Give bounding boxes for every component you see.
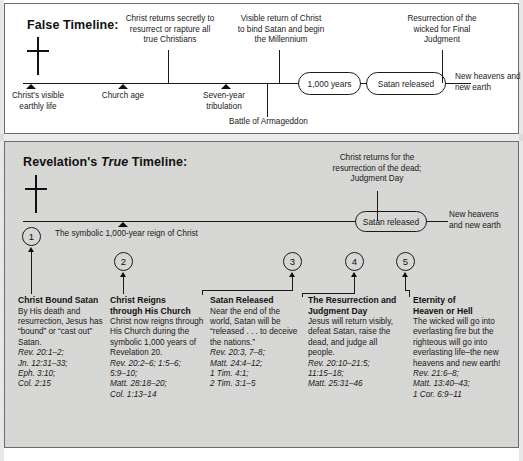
marker-circle-1-label: 1 — [29, 231, 34, 242]
pill-satan-released: Satan released — [366, 72, 446, 95]
column-2-body: Christ now reigns through His Church dur… — [110, 317, 206, 359]
marker-circle-2-label: 2 — [121, 256, 126, 267]
label-church-age: Church age — [85, 91, 161, 102]
cross-icon — [27, 37, 49, 77]
leader-line-col-1 — [31, 252, 32, 294]
label-new-heavens-true: New heavens and new earth — [449, 210, 517, 231]
leader-line-col-5-drop — [409, 290, 410, 297]
leader-line-col-4-h — [302, 293, 355, 294]
column-4-body: Jesus will return visibly, defeat Satan,… — [308, 317, 404, 359]
marker-circle-5-label: 5 — [403, 256, 408, 267]
label-visible-return: Visible return of Christ to bind Satan a… — [225, 14, 337, 46]
pill-1000-years-label: 1,000 years — [308, 79, 352, 89]
label-rapture: Christ returns secretly to resurrect or … — [111, 14, 229, 46]
leader-line-visible-return — [279, 50, 280, 83]
leader-line-col-5-v — [405, 277, 406, 291]
marker-circle-4-label: 4 — [352, 256, 357, 267]
label-christs-life: Christ's visible earthly life — [0, 91, 83, 112]
label-millennial-reign: The symbolic 1,000-year reign of Christ — [55, 229, 275, 240]
leader-line-col-4-drop — [302, 293, 303, 297]
column-1-body: By His death and resurrection, Jesus has… — [18, 307, 104, 349]
diagram-root: False Timeline: Christ returns secretly … — [0, 0, 523, 461]
pill-satan-released-label: Satan released — [378, 79, 434, 89]
column-5-heading: Eternity of Heaven or Hell — [413, 295, 511, 316]
true-timeline-title-emphasis: True — [101, 155, 128, 169]
column-3-body: Near the end of the world, Satan will be… — [210, 307, 300, 349]
true-timeline-title-suffix: Timeline: — [128, 155, 187, 169]
marker-circle-3-label: 3 — [290, 256, 295, 267]
marker-circle-4: 4 — [345, 252, 364, 271]
column-3: Satan Released Near the end of the world… — [210, 295, 300, 390]
marker-circle-5: 5 — [396, 252, 415, 271]
column-4: The Resurrection and Judgment Day Jesus … — [308, 295, 404, 390]
column-1-heading: Christ Bound Satan — [18, 295, 104, 306]
true-timeline-title: Revelation's True Timeline: — [23, 155, 187, 169]
label-resurrection-wicked: Resurrection of the wicked for Final Jud… — [387, 14, 497, 46]
leader-line-armageddon — [267, 83, 268, 117]
label-armageddon: Battle of Armageddon — [229, 117, 359, 128]
column-4-references: Rev. 20:10–21:5; 11:15–18; Matt. 25:31–4… — [308, 359, 404, 390]
true-timeline-panel: Revelation's True Timeline: Christ retur… — [4, 141, 519, 448]
marker-christs-life — [26, 84, 36, 89]
marker-church-age — [118, 84, 128, 89]
column-2-references: Rev. 20:2–6; 1:5–6; 5:9–10; Matt. 28:18–… — [110, 359, 206, 401]
pill-satan-released-true: Satan released — [355, 211, 427, 232]
page-edge-left — [0, 0, 4, 461]
true-timeline-axis — [23, 221, 356, 222]
pill-1000-years: 1,000 years — [298, 72, 361, 95]
false-timeline-title: False Timeline: — [27, 18, 119, 32]
column-4-heading: The Resurrection and Judgment Day — [308, 295, 404, 316]
label-judgment-day: Christ returns for the resurrection of t… — [321, 153, 433, 185]
column-5: Eternity of Heaven or Hell The wicked wi… — [413, 295, 511, 400]
false-timeline-axis — [23, 83, 291, 84]
label-new-heavens-false: New heavens and new earth — [455, 72, 521, 93]
caption-strip — [0, 450, 523, 461]
marker-tribulation — [221, 84, 231, 89]
column-3-heading: Satan Released — [210, 295, 300, 306]
cross-icon — [25, 175, 47, 215]
label-tribulation: Seven-year tribulation — [189, 91, 259, 112]
marker-circle-2: 2 — [114, 252, 133, 271]
column-3-references: Rev. 20:3, 7–8; Matt. 24:4–12; 1 Tim. 4:… — [210, 348, 300, 390]
true-timeline-title-prefix: Revelation's — [23, 155, 101, 169]
marker-circle-3: 3 — [283, 252, 302, 271]
column-1-references: Rev. 20:1–2; Jn. 12:31–33; Eph. 3:10; Co… — [18, 348, 104, 390]
leader-line-rapture — [168, 50, 169, 83]
column-5-references: Rev. 21:6–8; Matt. 13:40–43; 1 Cor. 6:9–… — [413, 369, 511, 400]
leader-line-col-3-v — [292, 277, 293, 291]
connector-tail-end-true — [426, 221, 448, 222]
column-5-body: The wicked will go into everlasting fire… — [413, 317, 511, 369]
page-gap-band — [0, 134, 523, 141]
pill-satan-released-true-label: Satan released — [363, 217, 419, 227]
column-1: Christ Bound Satan By His death and resu… — [18, 295, 104, 390]
false-timeline-panel: False Timeline: Christ returns secretly … — [4, 3, 519, 134]
marker-millennial-reign — [118, 222, 128, 227]
page-edge-right — [519, 0, 523, 461]
column-2-heading: Christ Reigns through His Church — [110, 295, 206, 316]
leader-line-col-2 — [123, 277, 124, 294]
column-2: Christ Reigns through His Church Christ … — [110, 295, 206, 400]
marker-circle-1: 1 — [22, 227, 41, 246]
leader-line-col-4-v — [354, 277, 355, 294]
leader-line-col-3-h — [202, 290, 293, 291]
